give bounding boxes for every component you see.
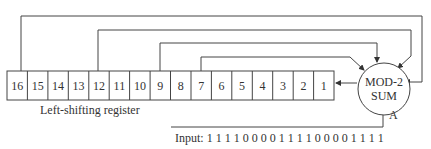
cell-13: 13 <box>73 79 85 93</box>
lfsr-diagram: 16 15 14 13 12 11 10 9 8 7 6 5 4 3 2 1 M… <box>0 0 431 149</box>
cell-15: 15 <box>32 79 44 93</box>
cell-14: 14 <box>52 79 64 93</box>
cell-6: 6 <box>219 79 225 93</box>
sum-label-line2: SUM <box>371 89 397 103</box>
tap-12-line <box>98 30 411 71</box>
cell-7: 7 <box>198 79 204 93</box>
cell-3: 3 <box>280 79 286 93</box>
tap-7-line <box>201 57 350 71</box>
cell-16: 16 <box>11 79 23 93</box>
tap-16-line <box>21 16 422 82</box>
sum-label-line1: MOD-2 <box>365 75 403 89</box>
input-node-label: A <box>389 108 398 122</box>
cell-10: 10 <box>134 79 146 93</box>
cell-9: 9 <box>157 79 163 93</box>
cell-5: 5 <box>239 79 245 93</box>
cell-12: 12 <box>93 79 105 93</box>
cell-11: 11 <box>114 79 126 93</box>
cell-4: 4 <box>260 79 266 93</box>
input-line <box>171 106 383 127</box>
cell-1: 1 <box>321 79 327 93</box>
cell-2: 2 <box>300 79 306 93</box>
cell-8: 8 <box>178 79 184 93</box>
input-sequence-label: Input: 1 1 1 1 0 0 0 0 1 1 1 1 0 0 0 0 1… <box>175 131 384 145</box>
register-label: Left-shifting register <box>40 103 140 117</box>
